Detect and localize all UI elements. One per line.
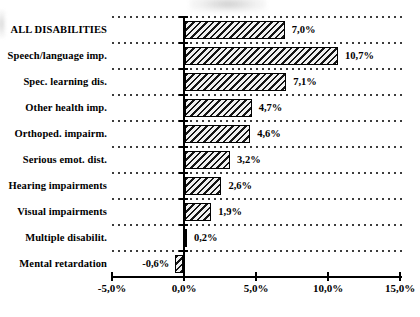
dotted-gridline bbox=[112, 224, 404, 226]
category-label: Multiple disabilit. bbox=[25, 225, 107, 251]
value-label: 3,2% bbox=[237, 147, 261, 173]
category-label: Hearing impairments bbox=[9, 173, 107, 199]
bar bbox=[185, 21, 285, 39]
bar bbox=[175, 255, 183, 273]
x-axis-tick bbox=[183, 272, 185, 281]
x-tick-label: 15,0% bbox=[385, 282, 415, 294]
x-tick-label: 10,0% bbox=[313, 282, 343, 294]
category-label: Spec. learning dis. bbox=[23, 69, 107, 95]
bar bbox=[185, 151, 230, 169]
x-axis-line bbox=[112, 276, 402, 278]
bar bbox=[185, 125, 250, 143]
category-label: Serious emot. dist. bbox=[23, 147, 107, 173]
bar bbox=[185, 47, 338, 65]
x-tick-label: 5,0% bbox=[244, 282, 269, 294]
dotted-gridline bbox=[112, 16, 404, 18]
x-axis-tick bbox=[111, 272, 113, 281]
bar-chart-figure: ALL DISABILITIESSpeech/language imp.Spec… bbox=[0, 0, 420, 317]
category-label: Speech/language imp. bbox=[8, 43, 107, 69]
value-label: 7,0% bbox=[292, 17, 316, 43]
value-label: 0,2% bbox=[194, 225, 218, 251]
x-axis-tick bbox=[255, 272, 257, 281]
value-label: 2,6% bbox=[228, 173, 252, 199]
bar bbox=[185, 73, 286, 91]
bar bbox=[185, 99, 252, 117]
value-label: -0,6% bbox=[142, 251, 169, 277]
bar bbox=[185, 203, 211, 221]
category-label: ALL DISABILITIES bbox=[11, 17, 107, 43]
value-label: 7,1% bbox=[293, 69, 317, 95]
category-label: Mental retardation bbox=[19, 251, 107, 277]
value-label: 10,7% bbox=[345, 43, 374, 69]
bar bbox=[185, 177, 221, 195]
x-tick-label: -5,0% bbox=[98, 282, 126, 294]
dotted-gridline bbox=[112, 198, 404, 200]
scan-smudge-artifact bbox=[190, 0, 266, 12]
x-tick-label: 0,0% bbox=[172, 282, 197, 294]
value-label: 1,9% bbox=[218, 199, 242, 225]
bar bbox=[185, 229, 187, 247]
value-label: 4,7% bbox=[259, 95, 283, 121]
category-label: Orthoped. impairm. bbox=[14, 121, 107, 147]
scan-edge-artifact bbox=[0, 10, 6, 38]
x-axis-tick bbox=[399, 272, 401, 281]
value-label: 4,6% bbox=[257, 121, 281, 147]
category-label: Visual impairments bbox=[17, 199, 107, 225]
category-label: Other health imp. bbox=[25, 95, 107, 121]
x-axis-tick bbox=[327, 272, 329, 281]
